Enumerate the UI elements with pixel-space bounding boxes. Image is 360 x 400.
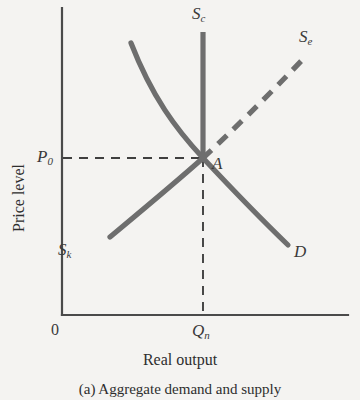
figure-caption: (a) Aggregate demand and supply [0,382,360,397]
curve-label-supply-keynesian: Sk [58,241,71,258]
origin-label: 0 [51,322,59,338]
x-axis-tick-label-qn: Qn [192,322,210,339]
aggregate-demand-supply-figure: Sc Se Sk D A P0 Qn 0 Price level Real ou… [0,0,360,400]
plot-canvas [0,0,360,400]
y-axis-tick-label-p0: P0 [37,148,53,165]
curve-label-supply-expected: Se [299,28,312,45]
demand-curve [131,43,288,245]
x-axis-title: Real output [0,352,360,368]
curve-label-demand: D [294,243,306,260]
expected-supply-curve [203,57,305,158]
y-axis-title: Price level [11,143,27,253]
curve-label-supply-classical: Sc [192,5,205,22]
keynesian-supply-curve [110,158,203,237]
equilibrium-point-label: A [212,155,222,172]
